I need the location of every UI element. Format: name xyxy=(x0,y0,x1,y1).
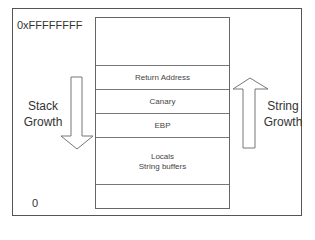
stack-growth-label: Stack Growth xyxy=(18,98,68,130)
string-growth-label: String Growth xyxy=(258,98,308,130)
